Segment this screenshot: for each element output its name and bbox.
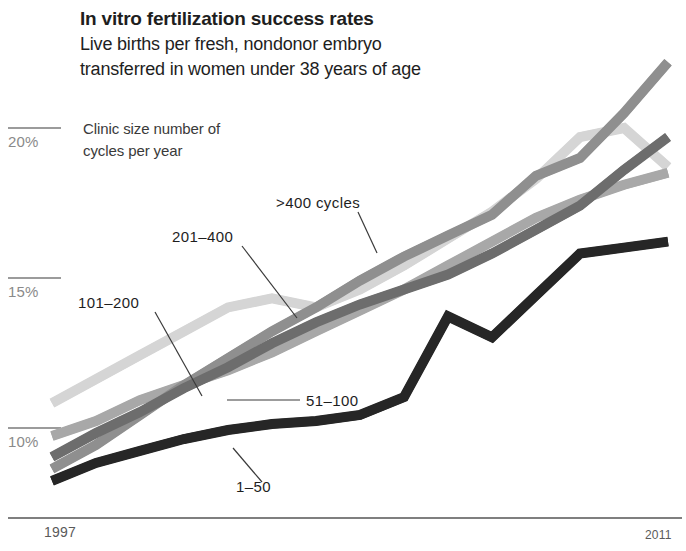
series-label-51-100: 51–100 <box>306 392 358 409</box>
series-label-gt400: >400 cycles <box>276 194 360 211</box>
series-group-overlay <box>52 62 668 481</box>
x-axis-end-label: 2011 <box>645 528 672 542</box>
series-label-1-50: 1–50 <box>236 478 271 495</box>
series-line-gt400 <box>52 128 668 403</box>
series-label-101-200: 101–200 <box>78 294 139 311</box>
x-axis-start-label: 1997 <box>44 524 76 540</box>
line-chart-svg <box>0 0 686 551</box>
leader-1-50 <box>233 448 262 482</box>
series-overlay-gt400 <box>52 128 668 403</box>
series-overlay-51-100 <box>52 137 668 457</box>
series-label-201-400: 201–400 <box>172 228 233 245</box>
leader-gt400 <box>358 212 377 253</box>
chart-page: In vitro fertilization success rates Liv… <box>0 0 686 551</box>
